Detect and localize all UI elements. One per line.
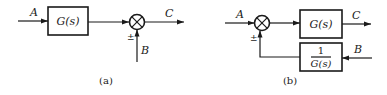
- disturbance-b-label: B: [140, 44, 149, 57]
- input-a-label: A: [29, 6, 38, 19]
- sign-label: ±: [250, 33, 258, 43]
- feedback-numerator: 1: [318, 45, 324, 56]
- g-block-label: G(s): [56, 15, 79, 28]
- caption-b: (b): [283, 75, 297, 86]
- input-a-label: A: [235, 8, 244, 21]
- diagram-b: A G(s) C 1 G(s) B ± (b): [225, 8, 372, 86]
- feedback-denominator: G(s): [311, 58, 332, 69]
- caption-a: (a): [99, 75, 113, 86]
- diagram-a: A G(s) C B ± (a): [18, 6, 184, 86]
- output-c-label: C: [165, 7, 174, 20]
- summing-junction-icon: [130, 15, 145, 30]
- sign-label: ±: [127, 32, 135, 42]
- disturbance-b-label: B: [353, 43, 362, 56]
- feedback-path: [260, 31, 300, 58]
- summing-junction-icon: [255, 16, 270, 31]
- output-c-label: C: [352, 9, 361, 22]
- forward-g-block-label: G(s): [309, 18, 332, 31]
